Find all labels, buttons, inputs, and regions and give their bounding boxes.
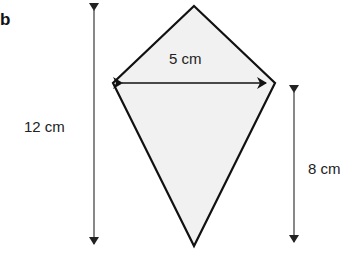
width-label: 5 cm (169, 50, 202, 67)
kite-shape (113, 6, 275, 246)
lower-height-label: 8 cm (308, 160, 341, 177)
total-height-label: 12 cm (24, 118, 65, 135)
